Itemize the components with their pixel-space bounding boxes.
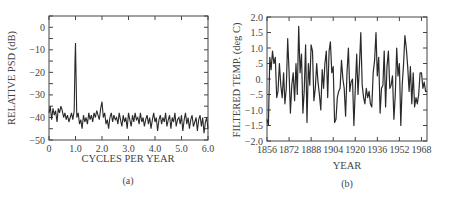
x-tick-label: 1936 — [367, 144, 387, 155]
x-tick-label: 1952 — [389, 144, 409, 155]
y-tick-label: .5 — [256, 58, 264, 69]
tick-labels: 01.02.03.04.05.06.00−10−20−30−40−50 — [29, 22, 214, 154]
tick-labels: 185618721888190419201936195219682.01.51.… — [245, 12, 432, 156]
y-tick-label: −20 — [29, 67, 45, 78]
temperature-line — [267, 26, 427, 125]
y-tick-label: −1.5 — [245, 120, 263, 131]
y-tick-label: 0 — [40, 22, 45, 33]
x-tick-label: 1920 — [345, 144, 365, 155]
x-axis-label: YEAR — [333, 160, 362, 171]
x-tick-label: 6.0 — [202, 143, 215, 154]
y-tick-label: −10 — [29, 44, 45, 55]
y-tick-label: 1.0 — [251, 43, 264, 54]
panel-a-psd-chart: 01.02.03.04.05.06.00−10−20−30−40−50 CYCL… — [6, 16, 214, 187]
y-tick-label: −1.0 — [245, 105, 263, 116]
x-tick-label: 5.0 — [175, 143, 188, 154]
x-axis-label: CYCLES PER YEAR — [82, 153, 175, 164]
y-axis-label: FILTERED TEMP. (deg C) — [231, 22, 243, 137]
panel-caption: (a) — [122, 175, 133, 187]
figure: 01.02.03.04.05.06.00−10−20−30−40−50 CYCL… — [0, 0, 451, 201]
x-tick-label: 1904 — [323, 144, 343, 155]
y-tick-label: −40 — [29, 112, 45, 123]
x-tick-label: 1968 — [411, 144, 431, 155]
x-tick-label: 1888 — [301, 144, 321, 155]
y-tick-label: −.5 — [250, 89, 263, 100]
x-tick-label: 1872 — [279, 144, 299, 155]
y-tick-label: 2.0 — [251, 12, 264, 23]
y-tick-label: 0. — [256, 74, 264, 85]
panel-caption: (b) — [341, 178, 353, 190]
y-tick-label: −30 — [29, 89, 45, 100]
x-tick-label: 1.0 — [69, 143, 82, 154]
psd-line — [49, 43, 208, 133]
panel-b-temperature-chart: 185618721888190419201936195219682.01.51.… — [231, 12, 431, 191]
x-tick-label: 0 — [47, 143, 52, 154]
y-tick-label: 1.5 — [251, 27, 264, 38]
y-tick-label: −2.0 — [245, 136, 263, 147]
y-axis-label: RELATIVE PSD (dB) — [6, 31, 18, 125]
y-tick-label: −50 — [29, 135, 45, 146]
